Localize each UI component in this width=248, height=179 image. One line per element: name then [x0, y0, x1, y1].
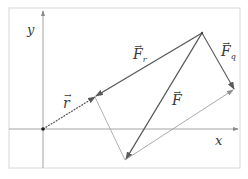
vector-arrow-icon: →	[222, 39, 231, 48]
y-axis-label: y	[27, 23, 34, 36]
vector-arrow-icon: →	[134, 42, 143, 51]
vector-arrow-icon: →	[64, 91, 70, 100]
r-label: →r	[63, 96, 70, 110]
vector-diagram	[0, 0, 248, 179]
f-label: →F	[172, 93, 182, 107]
f-q-label: →Fq	[221, 44, 236, 58]
f-r-vector	[96, 33, 202, 96]
x-axis-label: x	[215, 134, 222, 147]
origin-point	[41, 127, 45, 131]
vector-arrow-icon: →	[173, 88, 182, 97]
f-r-label: →Fr	[133, 47, 147, 61]
construction-line-left	[95, 97, 125, 160]
diagram-frame	[9, 8, 240, 168]
apex-point	[201, 32, 203, 34]
